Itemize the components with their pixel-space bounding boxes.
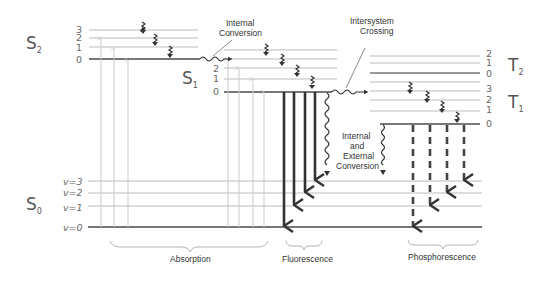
relaxation-squiggle bbox=[265, 44, 268, 52]
s0-level-0-label: v=0 bbox=[63, 222, 83, 233]
intersystem-crossing-arrow bbox=[332, 90, 366, 94]
category-braces: Absorption Fluorescence Phosphorescence bbox=[110, 240, 478, 264]
t1-level-1-label: 1 bbox=[486, 104, 492, 115]
relaxation-squiggle bbox=[142, 22, 145, 30]
jablonski-diagram: S2 3 2 1 0 S1 2 1 0 T2 2 1 0 T1 3 2 1 0 bbox=[0, 0, 550, 281]
state-t2: T2 2 1 0 bbox=[370, 48, 523, 79]
s0-level-1-label: v=1 bbox=[63, 202, 83, 213]
s2-level-0-label: 0 bbox=[76, 54, 82, 65]
nonradiative-decay-s1-arrow bbox=[325, 93, 329, 165]
internal-conversion-label-line1: Internal bbox=[226, 18, 254, 28]
internal-conversion-pointer bbox=[213, 40, 232, 56]
s0-level-2-label: v=2 bbox=[63, 187, 83, 198]
fluorescence-label: Fluorescence bbox=[282, 254, 333, 264]
phosphorescence-brace bbox=[408, 240, 478, 249]
t1-level-3-label: 3 bbox=[486, 83, 492, 94]
s1-level-0-label: 0 bbox=[213, 86, 219, 97]
s0-level-3-label: v=3 bbox=[63, 176, 83, 187]
internal-conversion-label-line2: Conversion bbox=[219, 28, 262, 38]
fluorescence-brace bbox=[286, 241, 322, 250]
relaxation-squiggle bbox=[296, 65, 299, 73]
s2-level-1-label: 1 bbox=[76, 42, 82, 53]
state-s1: S1 2 1 0 bbox=[182, 50, 337, 97]
internal-external-label-line4: Conversion bbox=[336, 161, 379, 171]
s2-label: S2 bbox=[26, 33, 42, 55]
internal-conversion: Internal Conversion bbox=[200, 18, 262, 61]
state-t1: T1 3 2 1 0 bbox=[370, 82, 523, 129]
phosphorescence-arrows bbox=[413, 125, 464, 226]
t2-label: T2 bbox=[507, 55, 523, 77]
t1-label: T1 bbox=[507, 92, 523, 114]
state-s2: S2 3 2 1 0 bbox=[26, 24, 200, 65]
intersystem-crossing-pointer bbox=[346, 48, 365, 88]
absorption-label: Absorption bbox=[170, 254, 211, 264]
relaxation-squiggle bbox=[426, 91, 429, 99]
t2-level-0-label: 0 bbox=[486, 68, 492, 79]
t1-level-0-label: 0 bbox=[486, 118, 492, 129]
internal-external-label-line2: and bbox=[350, 141, 364, 151]
internal-external-label-line1: Internal bbox=[342, 131, 370, 141]
absorption-arrows bbox=[101, 38, 264, 227]
absorption-brace bbox=[110, 241, 268, 252]
intersystem-crossing-label-line1: Intersystem bbox=[350, 16, 394, 26]
s0-label: S0 bbox=[26, 194, 42, 216]
relaxation-squiggle bbox=[281, 54, 284, 62]
internal-external-label-line3: External bbox=[343, 151, 374, 161]
phosphorescence-label: Phosphorescence bbox=[408, 252, 476, 262]
intersystem-crossing-label-line2: Crossing bbox=[360, 26, 394, 36]
relaxation-squiggle bbox=[456, 112, 459, 120]
relaxation-squiggle bbox=[441, 101, 444, 109]
t2-level-1-label: 1 bbox=[486, 57, 492, 68]
s1-level-1-label: 1 bbox=[213, 73, 219, 84]
relaxation-squiggle bbox=[311, 76, 314, 84]
s1-label: S1 bbox=[182, 68, 198, 90]
internal-conversion-arrow bbox=[200, 57, 230, 61]
nonradiative-decay-t1-arrow bbox=[382, 125, 385, 165]
internal-external-conversion: Internal and External Conversion bbox=[324, 93, 386, 176]
relaxation-squiggle bbox=[409, 82, 412, 90]
